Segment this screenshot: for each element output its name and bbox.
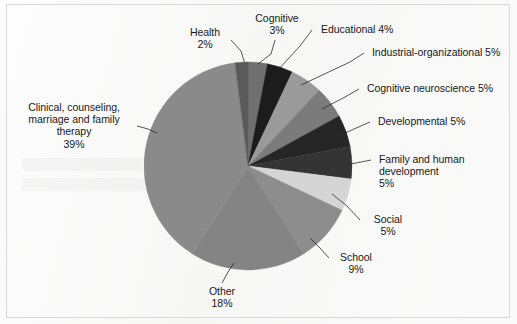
slice-label-cognitive-neuroscience: Cognitive neuroscience 5% — [367, 82, 517, 94]
slice-label-health: Health 2% — [178, 26, 232, 50]
slice-label-social: Social 5% — [364, 213, 412, 237]
slice-label-industrial-organizational: Industrial-organizational 5% — [372, 46, 517, 58]
slice-label-developmental: Developmental 5% — [378, 115, 510, 127]
leader-line-cognitive — [258, 40, 275, 64]
slice-label-educational: Educational 4% — [321, 23, 441, 35]
pie-slice-group — [144, 62, 352, 270]
slice-label-family-human-development: Family and human development 5% — [379, 153, 491, 190]
chart-page: Health 2% Cognitive 3% Educational 4% In… — [0, 0, 517, 324]
slice-label-clinical: Clinical, counseling, marriage and famil… — [12, 101, 136, 150]
slice-label-other: Other 18% — [196, 285, 248, 309]
leader-line-industrial-organizational — [301, 53, 364, 85]
leader-line-health — [231, 40, 245, 63]
slice-label-cognitive: Cognitive 3% — [240, 12, 314, 36]
slice-label-school: School 9% — [330, 251, 382, 275]
